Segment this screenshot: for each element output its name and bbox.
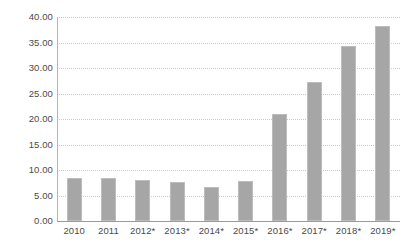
bar-slot bbox=[160, 17, 194, 221]
y-tick-label: 40.00 bbox=[3, 12, 53, 22]
x-axis-line bbox=[57, 221, 400, 222]
x-tick-label: 2010 bbox=[57, 224, 91, 238]
bar bbox=[67, 178, 82, 221]
y-tick-label: 15.00 bbox=[3, 140, 53, 150]
bar bbox=[375, 26, 390, 221]
bar bbox=[341, 46, 356, 221]
x-tick-slot: 2014* bbox=[194, 224, 228, 244]
x-tick-label: 2013* bbox=[160, 224, 194, 238]
y-tick-label: 35.00 bbox=[3, 38, 53, 48]
y-tick-label: 10.00 bbox=[3, 165, 53, 175]
bar-slot bbox=[194, 17, 228, 221]
x-axis: 201020112012*2013*2014*2015*2016*2017*20… bbox=[57, 224, 400, 244]
x-tick-label: 2017* bbox=[297, 224, 331, 238]
bar bbox=[238, 181, 253, 221]
bar-slot bbox=[126, 17, 160, 221]
x-tick-slot: 2017* bbox=[297, 224, 331, 244]
x-tick-slot: 2015* bbox=[228, 224, 262, 244]
x-tick-label: 2019* bbox=[366, 224, 400, 238]
x-tick-slot: 2010 bbox=[57, 224, 91, 244]
bar bbox=[307, 82, 322, 221]
bar bbox=[135, 180, 150, 221]
x-tick-slot: 2019* bbox=[366, 224, 400, 244]
bar-slot bbox=[91, 17, 125, 221]
x-tick-slot: 2013* bbox=[160, 224, 194, 244]
y-tick-label: 30.00 bbox=[3, 63, 53, 73]
x-tick-label: 2018* bbox=[331, 224, 365, 238]
y-tick-label: 5.00 bbox=[3, 191, 53, 201]
bar-slot bbox=[263, 17, 297, 221]
bar-slot bbox=[228, 17, 262, 221]
bar bbox=[101, 178, 116, 221]
bar-chart: 0.005.0010.0015.0020.0025.0030.0035.0040… bbox=[0, 0, 406, 251]
bar-slot bbox=[57, 17, 91, 221]
x-tick-label: 2014* bbox=[194, 224, 228, 238]
x-tick-label: 2015* bbox=[228, 224, 262, 238]
bar bbox=[204, 187, 219, 221]
bar bbox=[170, 182, 185, 221]
y-axis: 0.005.0010.0015.0020.0025.0030.0035.0040… bbox=[0, 0, 53, 251]
x-tick-slot: 2016* bbox=[263, 224, 297, 244]
x-tick-slot: 2018* bbox=[331, 224, 365, 244]
y-tick-label: 0.00 bbox=[3, 216, 53, 226]
x-tick-label: 2011 bbox=[91, 224, 125, 238]
x-tick-label: 2012* bbox=[126, 224, 160, 238]
y-tick-label: 25.00 bbox=[3, 89, 53, 99]
x-tick-slot: 2012* bbox=[126, 224, 160, 244]
y-tick-label: 20.00 bbox=[3, 114, 53, 124]
bar-slot bbox=[331, 17, 365, 221]
bar-slot bbox=[297, 17, 331, 221]
x-tick-slot: 2011 bbox=[91, 224, 125, 244]
bar bbox=[272, 114, 287, 221]
x-tick-label: 2016* bbox=[263, 224, 297, 238]
bar-series bbox=[57, 17, 400, 221]
bar-slot bbox=[366, 17, 400, 221]
